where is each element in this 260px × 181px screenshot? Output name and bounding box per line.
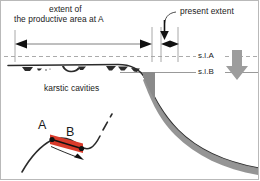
point-a-label: A	[38, 120, 46, 130]
terrain-profile	[8, 65, 258, 169]
geological-cross-section-figure: extent of the productive area at A prese…	[0, 0, 260, 181]
extent-label-line1: extent of	[49, 4, 82, 14]
extent-label-line2: the productive area at A	[14, 14, 104, 24]
sea-level-b-label: s.l.B	[198, 67, 214, 77]
ab-detail-inset	[22, 114, 112, 172]
point-a-marker	[49, 137, 54, 142]
sea-level-a-label: s.l.A	[198, 51, 214, 61]
submerged-cliff-shading	[143, 72, 258, 175]
extent-span-arrow	[15, 40, 152, 49]
sea-level-drop-arrow-icon	[226, 50, 248, 80]
present-span-arrow	[161, 41, 179, 48]
present-extent-label: present extent	[180, 6, 234, 16]
present-extent-leader-arrow	[160, 12, 176, 40]
karstic-cavities-label: karstic cavities	[44, 83, 99, 93]
karstic-cavities	[22, 66, 140, 72]
point-b-label: B	[66, 127, 74, 137]
diagram-canvas	[0, 0, 260, 181]
point-b-marker	[79, 146, 84, 151]
